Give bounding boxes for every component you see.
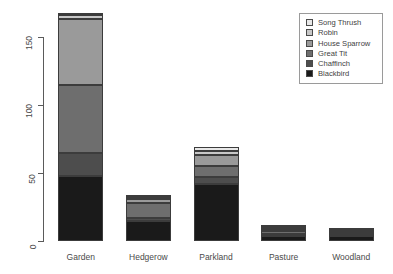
legend-swatch-icon <box>306 60 313 67</box>
legend-swatch-icon <box>306 19 313 26</box>
bar-chart: 050100150 GardenHedgerowParklandPastureW… <box>0 0 393 274</box>
bar-segment-song-thrush[interactable] <box>58 13 103 16</box>
bar-segment-blackbird[interactable] <box>261 236 306 241</box>
bar-segment-blackbird[interactable] <box>126 221 171 241</box>
bar-segment-house-sparrow[interactable] <box>194 155 239 166</box>
bar-segment-blackbird[interactable] <box>58 176 103 241</box>
bar-segment-song-thrush[interactable] <box>194 147 239 151</box>
bar-segment-chaffinch[interactable] <box>194 177 239 184</box>
bar-segment-chaffinch[interactable] <box>58 153 103 176</box>
legend-swatch-icon <box>306 29 313 36</box>
legend-item-blackbird[interactable]: Blackbird <box>304 69 378 79</box>
bar-hedgerow[interactable] <box>126 196 171 241</box>
bar-segment-robin[interactable] <box>58 15 103 19</box>
legend-item-robin[interactable]: Robin <box>304 28 378 38</box>
bar-segment-great-tit[interactable] <box>194 166 239 177</box>
legend: Song ThrushRobinHouse SparrowGreat TitCh… <box>299 13 383 84</box>
bar-pasture[interactable] <box>261 226 306 241</box>
bar-segment-great-tit[interactable] <box>126 203 171 218</box>
legend-item-label: Chaffinch <box>318 59 350 68</box>
bar-segment-great-tit[interactable] <box>261 231 306 234</box>
legend-item-song-thrush[interactable]: Song Thrush <box>304 18 378 28</box>
legend-item-label: Great Tit <box>318 49 347 58</box>
bar-woodland[interactable] <box>329 229 374 241</box>
bar-garden[interactable] <box>58 13 103 241</box>
legend-item-label: Robin <box>318 28 338 37</box>
bar-parkland[interactable] <box>194 147 239 241</box>
legend-swatch-icon <box>306 50 313 57</box>
bar-segment-blackbird[interactable] <box>329 236 374 241</box>
bar-segment-great-tit[interactable] <box>58 85 103 153</box>
legend-item-house-sparrow[interactable]: House Sparrow <box>304 38 378 48</box>
legend-item-label: Song Thrush <box>318 18 361 27</box>
bar-segment-house-sparrow[interactable] <box>261 229 306 232</box>
bar-segment-song-thrush[interactable] <box>261 225 306 227</box>
bar-segment-house-sparrow[interactable] <box>126 199 171 203</box>
bar-segment-song-thrush[interactable] <box>329 228 374 230</box>
legend-item-great-tit[interactable]: Great Tit <box>304 49 378 59</box>
legend-swatch-icon <box>306 40 313 47</box>
bar-segment-chaffinch[interactable] <box>126 218 171 221</box>
bar-segment-blackbird[interactable] <box>194 184 239 241</box>
bar-segment-robin[interactable] <box>194 151 239 155</box>
x-axis-label-woodland: Woodland <box>311 252 391 262</box>
bar-segment-song-thrush[interactable] <box>126 195 171 197</box>
legend-item-label: Blackbird <box>318 69 349 78</box>
bar-segment-house-sparrow[interactable] <box>58 19 103 84</box>
legend-item-chaffinch[interactable]: Chaffinch <box>304 59 378 69</box>
legend-item-label: House Sparrow <box>318 39 370 48</box>
legend-swatch-icon <box>306 70 313 77</box>
